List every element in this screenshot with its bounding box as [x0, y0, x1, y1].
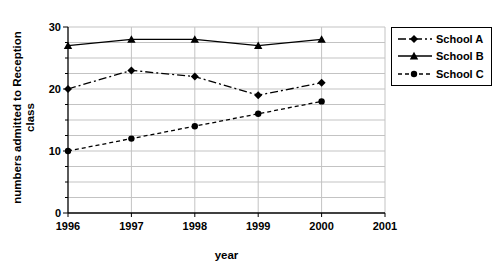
legend-marker-school-a-diamond-icon	[410, 35, 418, 43]
x-tick-label: 1998	[183, 220, 207, 232]
y-axis-title-line2: class	[24, 18, 37, 218]
legend-sample-school-b-solid-triangle-icon	[397, 50, 433, 62]
legend-sample-school-c-dashed-circle-icon	[397, 68, 433, 80]
x-axis-title: year	[196, 249, 257, 261]
series-marker-school-a-diamond-icon	[318, 79, 326, 87]
series-marker-school-c-circle-icon	[192, 123, 198, 129]
x-tick-label: 1997	[119, 220, 143, 232]
series-marker-school-c-circle-icon	[65, 148, 71, 154]
series-marker-school-a-diamond-icon	[64, 85, 72, 93]
legend-label-school-a: School A	[436, 33, 483, 45]
x-tick-label: 2000	[309, 220, 333, 232]
series-marker-school-c-circle-icon	[255, 111, 261, 117]
legend: School A School B School C	[391, 27, 492, 86]
y-tick-label: 10	[49, 145, 61, 157]
series-marker-school-c-circle-icon	[318, 98, 324, 104]
legend-marker-school-c-circle-icon	[411, 71, 417, 77]
legend-item-school-b: School B	[397, 50, 488, 62]
legend-label-school-c: School C	[436, 68, 484, 80]
y-tick-label: 20	[49, 83, 61, 95]
legend-item-school-a: School A	[397, 33, 488, 45]
legend-item-school-c: School C	[397, 68, 488, 80]
legend-label-school-b: School B	[436, 50, 484, 62]
reception-admissions-line-chart: 0102030199619971998199920002001 numbers …	[0, 0, 502, 276]
y-tick-label: 30	[49, 21, 61, 33]
legend-sample-school-a-dashdot-diamond-icon	[397, 33, 433, 45]
series-marker-school-a-diamond-icon	[254, 91, 262, 99]
y-axis-title: numbers admitted to Reception class	[11, 18, 38, 218]
y-axis-title-line1: numbers admitted to Reception	[11, 18, 24, 218]
x-tick-label: 2001	[373, 220, 397, 232]
series-marker-school-c-circle-icon	[128, 135, 134, 141]
x-tick-label: 1996	[56, 220, 80, 232]
series-marker-school-b-triangle-icon	[317, 35, 325, 43]
y-tick-label: 0	[55, 207, 61, 219]
x-tick-label: 1999	[246, 220, 270, 232]
